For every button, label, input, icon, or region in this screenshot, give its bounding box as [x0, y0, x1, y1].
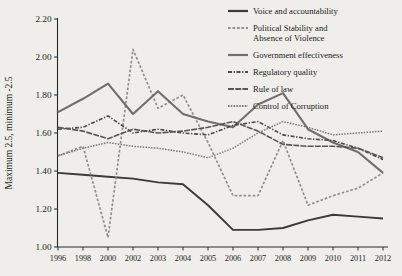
legend-label: Absence of Violence: [253, 33, 325, 43]
x-tick-label: 2010: [325, 254, 341, 263]
x-tick-label: 2002: [125, 254, 141, 263]
y-tick-label: 2.00: [35, 52, 51, 62]
y-tick-label: 1.00: [35, 242, 51, 252]
legend-label: Political Stability and: [253, 23, 328, 33]
series-line-voice-and-accountability: [58, 173, 383, 230]
y-tick-label: 1.20: [35, 204, 51, 214]
x-tick-label: 2012: [375, 254, 391, 263]
x-tick-label: 1996: [50, 254, 66, 263]
y-tick-label: 1.40: [35, 166, 51, 176]
x-tick-label: 2008: [275, 254, 291, 263]
x-tick-label: 2003: [150, 254, 166, 263]
x-tick-label: 1998: [75, 254, 91, 263]
chart-container: 2.202.001.801.601.401.201.00Maximum 2.5,…: [0, 0, 402, 276]
x-tick-label: 2007: [250, 254, 266, 263]
legend-label: Regulatory quality: [253, 67, 318, 77]
line-chart: 2.202.001.801.601.401.201.00Maximum 2.5,…: [0, 0, 402, 276]
x-tick-label: 2005: [200, 254, 216, 263]
x-tick-label: 2004: [175, 254, 191, 263]
series-line-government-effectiveness: [58, 84, 383, 173]
series-line-control-of-corruption: [58, 122, 383, 158]
x-tick-label: 2006: [225, 254, 241, 263]
y-tick-label: 2.20: [35, 14, 51, 24]
legend-label: Control of Corruption: [253, 101, 329, 111]
x-tick-label: 2000: [100, 254, 116, 263]
y-tick-label: 1.80: [35, 90, 51, 100]
y-axis-title: Maximum 2.5, minimum -2.5: [4, 76, 14, 189]
legend-label: Rule of law: [253, 84, 294, 94]
y-tick-label: 1.60: [35, 128, 51, 138]
x-tick-label: 2011: [350, 254, 366, 263]
legend-label: Government effectiveness: [253, 50, 343, 60]
legend-label: Voice and accountability: [253, 6, 338, 16]
x-tick-label: 2009: [300, 254, 316, 263]
